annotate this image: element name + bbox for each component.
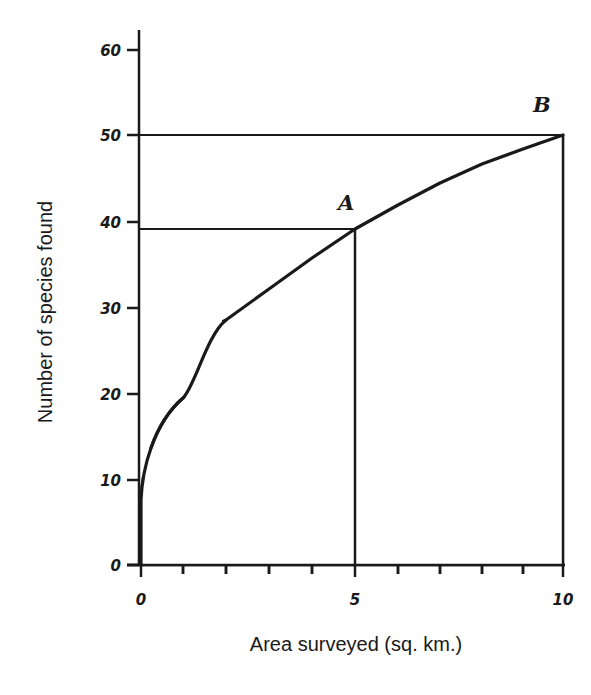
point-b-label: B — [532, 92, 551, 117]
x-axis-title: Area surveyed (sq. km.) — [250, 633, 462, 655]
labels-layer: A B Area surveyed (sq. km.) Number of sp… — [0, 0, 591, 695]
point-a-label: A — [336, 190, 354, 215]
y-axis-title: Number of species found — [34, 201, 56, 423]
